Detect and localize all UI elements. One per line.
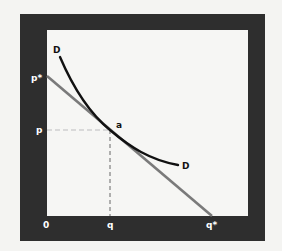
plot-area — [47, 30, 248, 216]
label-origin: 0 — [43, 220, 49, 230]
label-curve-end: D — [182, 161, 189, 171]
label-price-star: p* — [31, 73, 42, 83]
label-quantity: q — [107, 220, 113, 230]
label-tangent-point: a — [116, 120, 122, 130]
label-curve-top: D — [53, 45, 60, 55]
label-price: p — [36, 125, 43, 135]
demand-diagram: D D a p* p 0 q q* — [0, 0, 282, 251]
label-quantity-star: q* — [206, 220, 217, 230]
